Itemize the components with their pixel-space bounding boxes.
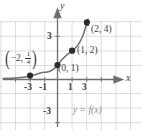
x-axis-arrowhead [114,76,123,82]
neg2-x-part: −2, [11,54,23,64]
point-label-2-4: (2, 4) [91,25,112,35]
point-marker-neg2 [27,73,33,79]
y-axis-label: y [60,1,64,11]
point-label-1-2: (1, 2) [77,46,98,56]
one-quarter-fraction: 1 4 [25,51,31,67]
y-tick-label-neg3: -3 [43,107,51,117]
function-equation-label: y = f(x) [73,106,102,116]
y-tick-label-3: 3 [47,32,52,42]
open-paren: ( [5,51,10,67]
point-label-0-1: (0, 1) [58,64,79,74]
fraction-numerator: 1 [25,51,31,58]
x-tick-label-neg3: -3 [24,83,32,93]
close-paren: ) [32,51,37,67]
x-tick-label-1: 1 [68,83,73,93]
x-axis-label: x [126,73,130,83]
x-tick-label-3: 3 [82,83,87,93]
exponential-function-graph-figure: y x -3 -1 1 3 3 -3 (2, 4) (1, 2) (0, 1) … [0,0,143,139]
point-marker-1-2 [69,48,75,54]
point-label-neg2-quarter: ( −2, 1 4 ) [4,51,38,67]
fraction-denominator: 4 [25,59,31,66]
grid-lines [0,21,142,130]
point-marker-2-4 [84,19,90,25]
x-tick-label-neg1: -1 [39,83,47,93]
